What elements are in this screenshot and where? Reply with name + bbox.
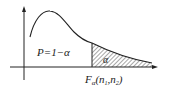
alpha-label: α bbox=[103, 54, 109, 65]
critical-value-label: Fα(n1,n2) bbox=[84, 73, 123, 87]
f-distribution-diagram: P=1−α α Fα(n1,n2) bbox=[0, 0, 169, 95]
tail-region-hatch bbox=[92, 40, 154, 67]
x-axis-arrow-icon bbox=[152, 65, 158, 69]
probability-label: P=1−α bbox=[36, 46, 70, 58]
args-close: ) bbox=[118, 73, 123, 86]
y-axis-arrow-icon bbox=[22, 6, 26, 12]
